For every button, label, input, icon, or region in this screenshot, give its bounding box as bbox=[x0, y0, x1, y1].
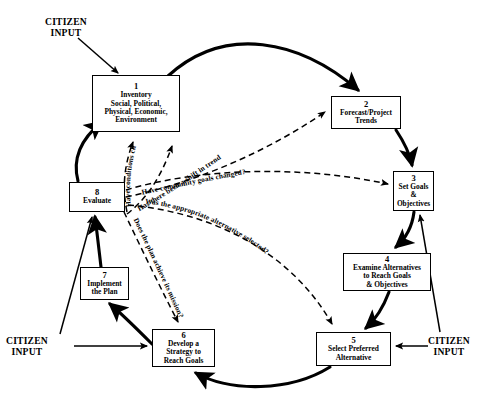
process-node-6[interactable]: 6 Develop a Strategy to Reach Goals bbox=[152, 329, 215, 367]
edge-7-to-8 bbox=[95, 217, 101, 267]
node-4-label: Examine Alternatives to Reach Goals & Ob… bbox=[351, 264, 423, 289]
process-node-3[interactable]: 3 Set Goals & Objectives bbox=[393, 171, 434, 211]
node-7-label: Implement the Plan bbox=[85, 280, 124, 297]
citizen-input-bottom-right: CITIZEN INPUT bbox=[428, 335, 470, 357]
node-3-label: Set Goals & Objectives bbox=[395, 183, 432, 208]
feedback-label-appropriate-alternative: Was the appropriate alternative selected… bbox=[145, 197, 271, 257]
citizen-input-bottom-left: CITIZEN INPUT bbox=[6, 335, 48, 357]
planning-process-diagram: Have conditions changed? Has there been … bbox=[0, 0, 494, 398]
process-node-4[interactable]: 4 Examine Alternatives to Reach Goals & … bbox=[343, 253, 431, 291]
edge-4-to-5 bbox=[366, 292, 389, 328]
edge-6-to-7 bbox=[110, 304, 152, 344]
feedback-question-labels: Have conditions changed? Has there been … bbox=[0, 0, 271, 320]
citizen-line-top-left bbox=[78, 38, 118, 73]
node-5-label: Select Preferred Alternative bbox=[326, 345, 381, 362]
edge-3-to-4 bbox=[396, 212, 414, 247]
process-node-5[interactable]: 5 Select Preferred Alternative bbox=[316, 332, 391, 366]
edge-1-to-2 bbox=[168, 44, 358, 90]
process-node-2[interactable]: 2 Forecast/Project Trends bbox=[331, 96, 401, 129]
process-node-1[interactable]: 1 Inventory Social, Political, Physical,… bbox=[92, 75, 180, 132]
node-8-label: Evaluate bbox=[81, 197, 113, 205]
feedback-edges bbox=[124, 112, 388, 324]
feedback-q6-to-node-6 bbox=[124, 212, 178, 322]
edge-5-to-6 bbox=[196, 367, 330, 387]
node-1-label: Inventory Social, Political, Physical, E… bbox=[102, 91, 169, 125]
citizen-input-top-left: CITIZEN INPUT bbox=[45, 16, 87, 38]
process-node-7[interactable]: 7 Implement the Plan bbox=[80, 267, 129, 300]
edge-2-to-3 bbox=[396, 130, 412, 165]
feedback-label-plan-achieve-mission: Does the plan achieve its mission? bbox=[132, 216, 186, 319]
node-6-label: Develop a Strategy to Reach Goals bbox=[162, 340, 206, 365]
node-2-label: Forecast/Project Trends bbox=[338, 109, 394, 126]
process-node-8[interactable]: 8 Evaluate bbox=[69, 182, 125, 212]
